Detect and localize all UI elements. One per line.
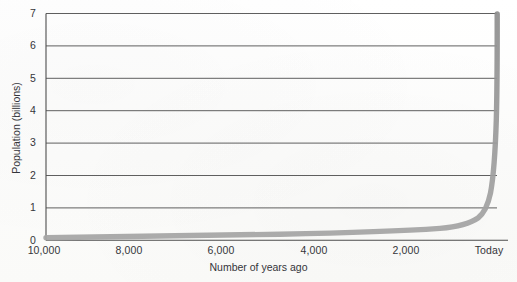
population-growth-chart-figure: 7 6 5 4 3 2 1 0 10,000 8,000 6,000 4,000… — [0, 0, 517, 282]
x-axis-title: Number of years ago — [0, 261, 517, 273]
y-axis-title: Population (billions) — [10, 58, 22, 198]
x-tick-label-2000: 2,000 — [378, 244, 434, 256]
y-tick-label-7: 7 — [14, 7, 36, 19]
y-tick-label-1: 1 — [14, 201, 36, 213]
x-tick-label-today: Today — [464, 244, 514, 256]
y-tick-label-6: 6 — [14, 39, 36, 51]
x-tick-label-8000: 8,000 — [101, 244, 157, 256]
population-curve — [46, 14, 497, 238]
x-tick-label-4000: 4,000 — [286, 244, 342, 256]
x-tick-label-6000: 6,000 — [193, 244, 249, 256]
chart-plot-area — [0, 0, 517, 282]
gridlines — [46, 14, 497, 208]
x-tick-label-10000: 10,000 — [14, 244, 74, 256]
